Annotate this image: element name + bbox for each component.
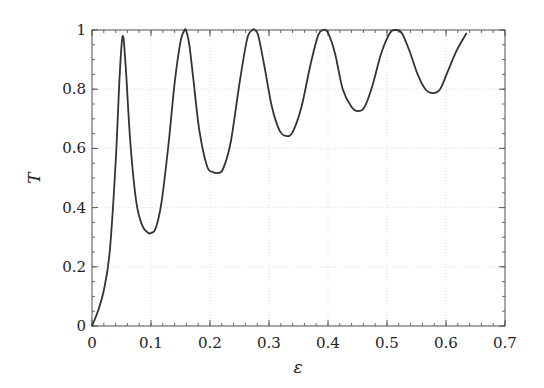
x-tick-label: 0.4 bbox=[316, 334, 340, 352]
y-tick-label: 1 bbox=[76, 21, 86, 39]
plot-frame bbox=[92, 30, 505, 326]
x-tick-label: 0.1 bbox=[139, 334, 163, 352]
x-tick-label: 0.7 bbox=[493, 334, 517, 352]
x-tick-label: 0.5 bbox=[375, 334, 399, 352]
x-tick-label: 0 bbox=[87, 334, 97, 352]
y-tick-label: 0.6 bbox=[62, 139, 86, 157]
y-tick-labels: 00.20.40.60.81 bbox=[62, 21, 86, 335]
x-tick-labels: 00.10.20.30.40.50.60.7 bbox=[87, 334, 517, 352]
line-chart: 00.10.20.30.40.50.60.7 00.20.40.60.81 ε … bbox=[0, 0, 544, 388]
grid-lines bbox=[92, 30, 505, 326]
y-tick-label: 0.2 bbox=[62, 258, 86, 276]
y-tick-label: 0.4 bbox=[62, 199, 86, 217]
data-line-T bbox=[92, 29, 467, 326]
x-tick-label: 0.3 bbox=[257, 334, 281, 352]
y-axis-label: T bbox=[24, 171, 44, 184]
y-tick-label: 0 bbox=[76, 317, 86, 335]
x-tick-label: 0.2 bbox=[198, 334, 222, 352]
x-tick-label: 0.6 bbox=[434, 334, 458, 352]
minor-ticks bbox=[92, 30, 505, 326]
y-tick-label: 0.8 bbox=[62, 80, 86, 98]
x-axis-label: ε bbox=[293, 357, 302, 377]
